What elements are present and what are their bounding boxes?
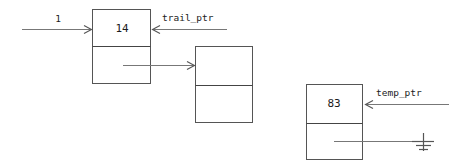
linked-list-diagram: 14 83 1 trail_ptr (0, 0, 454, 165)
node-1[interactable]: 14 (93, 10, 151, 84)
entry-arrow-label: 1 (55, 13, 61, 24)
temp-ptr-arrow: temp_ptr (366, 87, 450, 109)
node-3-value: 83 (327, 97, 340, 110)
node-1-value: 14 (115, 22, 129, 35)
trail-ptr-arrow: trail_ptr (153, 12, 228, 34)
temp-ptr-label: temp_ptr (376, 87, 422, 98)
entry-arrow: 1 (22, 13, 92, 34)
diagram-canvas: 14 83 1 trail_ptr (0, 0, 454, 165)
node-2[interactable] (196, 47, 253, 123)
trail-ptr-label: trail_ptr (162, 12, 214, 23)
node-3[interactable]: 83 (307, 85, 363, 160)
node-2-box (196, 47, 253, 123)
